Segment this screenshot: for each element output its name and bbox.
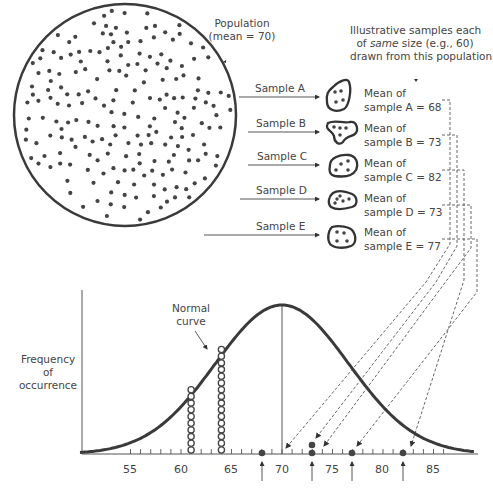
note-emphasis: same	[370, 37, 399, 49]
population-label-line1: Population	[196, 17, 288, 30]
sample-blob-e	[328, 226, 355, 248]
sample-mean-stacks	[188, 346, 224, 453]
mean-line1: Mean of	[364, 121, 442, 135]
normal-curve-label: Normal curve	[166, 302, 216, 328]
chart-axes	[82, 290, 478, 454]
y-axis-label: Frequency of occurrence	[18, 353, 78, 392]
sample-b-label: Sample B	[256, 117, 306, 130]
sample-blob-c	[330, 155, 358, 177]
samples-note-line2: of same size (e.g., 60)	[350, 37, 480, 50]
sample-blob-a	[327, 80, 350, 111]
mean-line1: Mean of	[364, 86, 442, 100]
sample-b-mean: Mean of sample B = 73	[364, 121, 442, 149]
mean-line1: Mean of	[364, 225, 441, 239]
mean-connectors	[286, 100, 477, 448]
sample-d-label: Sample D	[256, 184, 307, 197]
note-pointer-icon	[414, 79, 418, 82]
sample-a-label: Sample A	[255, 82, 305, 95]
mean-line2: sample B = 73	[364, 135, 442, 149]
sample-blob-d	[329, 191, 357, 209]
note-text: of	[356, 37, 369, 49]
mean-line1: Mean of	[364, 156, 442, 170]
curve-label-line2: curve	[166, 315, 216, 328]
x-axis-ticks	[131, 449, 444, 454]
note-text: size (e.g., 60)	[398, 37, 473, 49]
x-tick-75: 75	[325, 463, 339, 476]
sample-d-mean: Mean of sample D = 73	[364, 191, 442, 219]
sample-a-mean: Mean of sample A = 68	[364, 86, 442, 114]
sample-c-mean: Mean of sample C = 82	[364, 156, 442, 184]
ylabel-line2: of	[18, 366, 78, 379]
population-label-line2: (mean = 70)	[196, 30, 288, 43]
mean-line2: sample D = 73	[364, 205, 442, 219]
ylabel-line1: Frequency	[18, 353, 78, 366]
x-tick-80: 80	[375, 463, 389, 476]
samples-note: Illustrative samples each of same size (…	[350, 24, 480, 63]
x-tick-55: 55	[123, 463, 137, 476]
x-tick-60: 60	[174, 463, 188, 476]
normal-curve	[80, 305, 474, 453]
normal-curve-pointer	[195, 331, 207, 349]
x-tick-70: 70	[275, 463, 289, 476]
sample-blob-b	[327, 121, 357, 143]
mean-line2: sample C = 82	[364, 170, 442, 184]
sample-e-label: Sample E	[256, 220, 305, 233]
sample-c-label: Sample C	[257, 150, 307, 163]
mean-line2: sample E = 77	[364, 239, 441, 253]
x-tick-65: 65	[224, 463, 238, 476]
mean-line2: sample A = 68	[364, 100, 442, 114]
x-tick-85: 85	[426, 463, 440, 476]
ylabel-line3: occurrence	[18, 379, 78, 392]
sample-e-mean: Mean of sample E = 77	[364, 225, 441, 253]
mean-line1: Mean of	[364, 191, 442, 205]
samples-note-line3: drawn from this population	[350, 50, 480, 63]
curve-label-line1: Normal	[166, 302, 216, 315]
samples-note-line1: Illustrative samples each	[350, 24, 480, 37]
population-label: Population (mean = 70)	[196, 17, 288, 43]
